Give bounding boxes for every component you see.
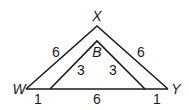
side-label-xy: 6 [137,44,145,60]
side-label-inner-right: 3 [109,62,117,78]
vertex-label-w: W [12,81,27,97]
vertex-label-y: Y [171,81,182,97]
diagram-canvas: X W Y B 6 6 3 3 1 6 1 [0,0,189,110]
vertex-label-x: X [91,8,102,24]
base-label-right: 1 [153,91,161,107]
base-label-left: 1 [34,91,42,107]
side-label-inner-left: 3 [77,62,85,78]
vertex-label-b: B [92,44,101,60]
triangle-diagram: X W Y B 6 6 3 3 1 6 1 [0,0,189,110]
side-label-wx: 6 [52,44,60,60]
base-label-mid: 6 [93,91,101,107]
